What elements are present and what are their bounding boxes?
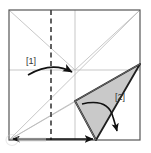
origami-diagram-figure: [1] [2] [0, 0, 151, 153]
watermark-bar [18, 138, 46, 143]
origami-diagram-canvas: [1] [2] [0, 0, 151, 153]
step-label-2: [2] [115, 92, 125, 102]
step-label-1: [1] [26, 56, 36, 66]
